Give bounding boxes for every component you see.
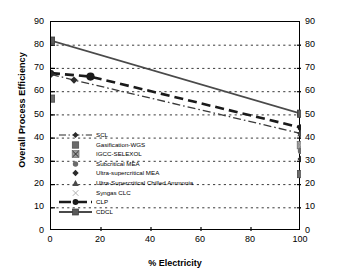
legend-item-igcc-selexol[interactable]: IGCC-SELEXOL xyxy=(58,149,193,159)
legend-label-gasification-wgs: Gasification-WGS xyxy=(94,140,145,150)
x-tick-label-60: 60 xyxy=(185,234,215,244)
y2-tick-label-50: 50 xyxy=(305,110,327,119)
y-tick-label-80: 80 xyxy=(22,40,44,49)
chart-page: Overall Process Efficiency 90 80 70 60 5… xyxy=(0,0,339,276)
y2-tick-label-80: 80 xyxy=(305,40,327,49)
circle-icon xyxy=(58,159,94,169)
y2-tick-label-90: 90 xyxy=(305,17,327,26)
y2-tick-label-60: 60 xyxy=(305,86,327,95)
y2-tick-label-70: 70 xyxy=(305,63,327,72)
legend-label-igcc-selexol: IGCC-SELEXOL xyxy=(94,149,142,159)
y2-tick-label-30: 30 xyxy=(305,156,327,165)
triangle-icon xyxy=(58,178,94,188)
legend-item-syngas-clc[interactable]: Syngas CLC xyxy=(58,188,193,198)
y-tick-label-20: 20 xyxy=(22,179,44,188)
x-tick-label-40: 40 xyxy=(135,234,165,244)
legend-label-subcritical-mea: Subcritical MEA xyxy=(94,159,140,169)
x-icon xyxy=(58,188,94,198)
legend-label-cdcl: CDCL xyxy=(94,207,113,217)
y-tick-label-50: 50 xyxy=(22,110,44,119)
marker-clp xyxy=(51,70,301,131)
legend-item-clp[interactable]: CLP xyxy=(58,197,193,207)
legend-label-ultra-supercritical-chilled-ammonia: Ultra-Supercritical Chilled Ammonia xyxy=(94,178,193,188)
legend-item-gasification-wgs[interactable]: Gasification-WGS xyxy=(58,140,193,150)
diamond-icon xyxy=(58,168,94,178)
legend-label-clp: CLP xyxy=(94,197,108,207)
thickdash-circle-icon xyxy=(58,197,94,207)
y2-tick-label-10: 10 xyxy=(305,202,327,211)
x-tick-label-80: 80 xyxy=(235,234,265,244)
y-tick-label-10: 10 xyxy=(22,202,44,211)
x-tick-label-20: 20 xyxy=(85,234,115,244)
legend-item-scl[interactable]: SCL xyxy=(58,130,193,140)
x-box-icon xyxy=(58,149,94,159)
x-tick-label-100: 100 xyxy=(285,234,315,244)
y-tick-label-70: 70 xyxy=(22,63,44,72)
y2-tick-label-20: 20 xyxy=(305,179,327,188)
legend-item-ultra-supercritical-mea[interactable]: Ultra-supercritical MEA xyxy=(58,168,193,178)
series-line-clp xyxy=(51,73,301,128)
y2-tick-label-40: 40 xyxy=(305,133,327,142)
legend-item-subcritical-mea[interactable]: Subcritical MEA xyxy=(58,159,193,169)
solid-square-icon xyxy=(58,207,94,217)
x-tick-label-0: 0 xyxy=(35,234,65,244)
series-line-scl xyxy=(51,74,301,133)
y-tick-label-40: 40 xyxy=(22,133,44,142)
legend-item-ultra-supercritical-chilled-ammonia[interactable]: Ultra-Supercritical Chilled Ammonia xyxy=(58,178,193,188)
legend-label-syngas-clc: Syngas CLC xyxy=(94,188,131,198)
legend-label-scl: SCL xyxy=(94,130,108,140)
y-tick-label-60: 60 xyxy=(22,86,44,95)
dashdot-diamond-icon xyxy=(58,130,94,140)
x-axis-title: % Electricity xyxy=(50,258,300,268)
chart-legend: SCL Gasification-WGS IGCC-SELEXOL xyxy=(58,130,193,216)
y-tick-label-30: 30 xyxy=(22,156,44,165)
legend-item-cdcl[interactable]: CDCL xyxy=(58,207,193,217)
square-icon xyxy=(58,140,94,150)
y-tick-label-90: 90 xyxy=(22,17,44,26)
legend-label-ultra-supercritical-mea: Ultra-supercritical MEA xyxy=(94,168,159,178)
